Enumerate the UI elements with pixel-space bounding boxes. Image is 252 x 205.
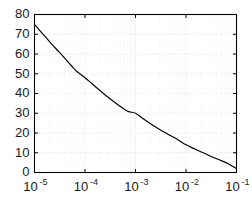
x-tick-label-exponent: -1 <box>242 177 250 187</box>
y-tick-label: 80 <box>15 6 29 21</box>
y-tick-label: 30 <box>15 105 29 120</box>
figure-background <box>0 0 252 205</box>
x-tick-label-base: 10 <box>124 179 138 194</box>
x-tick-label-exponent: -2 <box>191 177 199 187</box>
x-tick-label-base: 10 <box>225 179 239 194</box>
y-tick-label: 0 <box>22 164 29 179</box>
y-tick-labels-group: 01020304050607080 <box>15 6 29 179</box>
chart-figure: 01020304050607080 10-510-410-310-210-1 <box>0 0 252 205</box>
x-tick-label-exponent: -3 <box>141 177 149 187</box>
x-tick-label-base: 10 <box>23 179 37 194</box>
y-tick-label: 70 <box>15 26 29 41</box>
x-tick-label-exponent: -5 <box>40 177 48 187</box>
y-tick-label: 20 <box>15 125 29 140</box>
x-tick-label-base: 10 <box>175 179 189 194</box>
y-tick-label: 40 <box>15 85 29 100</box>
y-tick-label: 60 <box>15 46 29 61</box>
semilog-plot: 01020304050607080 10-510-410-310-210-1 <box>0 0 252 205</box>
x-tick-label-exponent: -4 <box>90 177 98 187</box>
x-tick-label-base: 10 <box>74 179 88 194</box>
y-tick-label: 50 <box>15 66 29 81</box>
y-tick-label: 10 <box>15 145 29 160</box>
